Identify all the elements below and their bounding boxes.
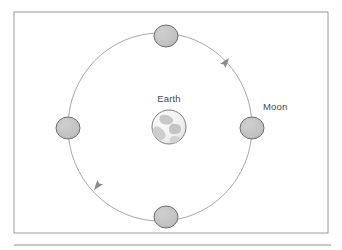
orbit-diagram-figure: Earth Moon [0, 0, 342, 250]
moon-position-left [56, 117, 80, 139]
moon-position-top [154, 25, 178, 47]
earth-landmass-icon [169, 124, 181, 134]
moon-position-bottom [154, 206, 178, 228]
moon-label: Moon [263, 101, 288, 112]
moon-position-right [240, 117, 264, 139]
earth-label: Earth [157, 93, 181, 104]
diagram-canvas: Earth Moon [0, 0, 342, 250]
earth-body [152, 110, 186, 144]
